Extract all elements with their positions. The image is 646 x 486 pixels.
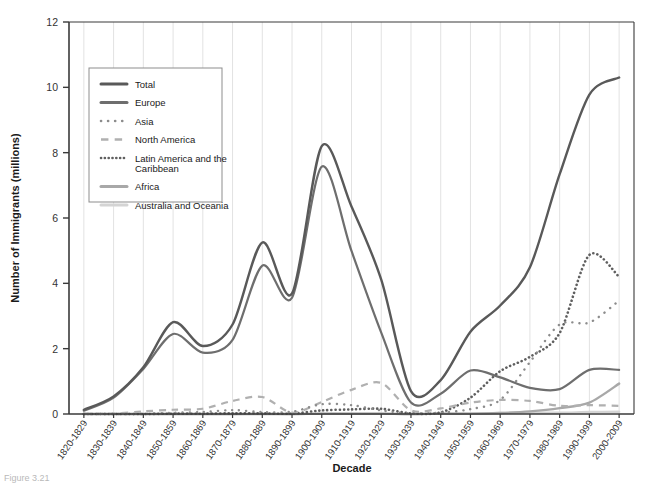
y-tick-label-0: 0	[52, 408, 58, 420]
legend-label-latin-america-and-the-line2: Caribbean	[135, 163, 179, 174]
legend-label-north-america: North America	[135, 134, 196, 145]
y-tick-label-12: 12	[46, 16, 58, 28]
legend-label-africa: Africa	[135, 181, 160, 192]
y-tick-label-4: 4	[52, 277, 58, 289]
y-tick-label-8: 8	[52, 147, 58, 159]
y-tick-label-6: 6	[52, 212, 58, 224]
figure-caption: Figure 3.21	[4, 473, 50, 483]
chart-legend: TotalEuropeAsiaNorth AmericaLatin Americ…	[89, 68, 229, 211]
immigration-line-chart-figure: 024681012 1820-18291830-18391840-1849185…	[0, 0, 646, 486]
y-tick-label-2: 2	[52, 343, 58, 355]
legend-label-asia: Asia	[135, 116, 154, 127]
legend-label-australia-and-oceania: Australia and Oceania	[135, 200, 229, 211]
legend-label-europe: Europe	[135, 97, 166, 108]
y-tick-label-10: 10	[46, 81, 58, 93]
y-axis-title: Number of Immigrants (millions)	[9, 133, 21, 303]
legend-label-total: Total	[135, 79, 155, 90]
chart-canvas: 024681012 1820-18291830-18391840-1849185…	[0, 0, 646, 486]
x-axis-title: Decade	[332, 462, 371, 474]
